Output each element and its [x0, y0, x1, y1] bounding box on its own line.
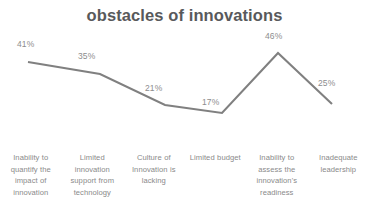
category-label-0: Inability to quantify the impact of inno…	[0, 152, 62, 198]
data-label-2: 21%	[145, 83, 162, 93]
series-line-group	[0, 0, 369, 150]
series-line-obstacles	[28, 53, 332, 113]
data-label-0: 41%	[17, 39, 34, 49]
data-label-1: 35%	[78, 51, 95, 61]
category-label-5: Inadequate leadership	[308, 152, 369, 175]
category-label-4: Inability to assess the innovation's rea…	[246, 152, 308, 198]
data-label-5: 25%	[318, 78, 335, 88]
line-chart: obstacles of innovations 41%35%21%17%46%…	[0, 0, 369, 218]
data-label-4: 46%	[265, 31, 282, 41]
category-label-3: Limited budget	[185, 152, 247, 164]
plot-area: 41%35%21%17%46%25%	[0, 0, 369, 150]
category-label-2: Culture of Innovation is lacking	[123, 152, 185, 187]
category-label-1: Limited innovation support from technolo…	[62, 152, 124, 198]
data-label-3: 17%	[202, 97, 219, 107]
category-axis: Inability to quantify the impact of inno…	[0, 152, 369, 218]
